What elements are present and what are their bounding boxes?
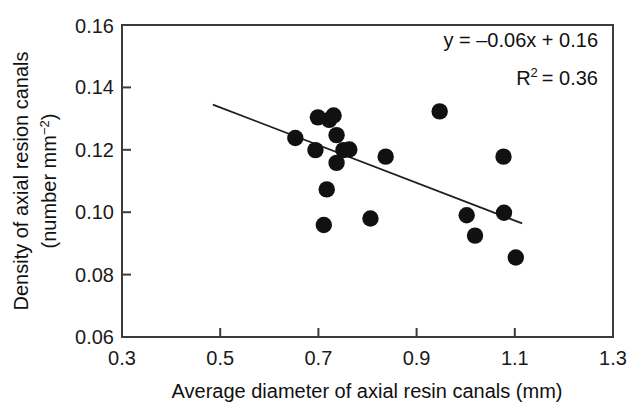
r-squared-superscript: 2: [531, 65, 538, 80]
y-axis-title-line2: (number mm−2): [37, 114, 60, 249]
data-point: [458, 207, 474, 223]
y-tick-label-0.08: 0.08: [75, 264, 114, 286]
y-axis-ticks: [122, 25, 131, 337]
x-axis-ticks: [122, 328, 613, 337]
regression-fit-line: [213, 105, 522, 224]
x-axis-tick-labels: 0.3 0.5 0.7 0.9 1.1 1.3: [108, 347, 627, 369]
data-point: [316, 217, 332, 233]
x-tick-label-0.9: 0.9: [403, 347, 431, 369]
x-tick-label-1.3: 1.3: [599, 347, 627, 369]
r-squared-symbol: R: [516, 67, 530, 89]
data-points-layer: [287, 103, 524, 265]
data-point: [431, 103, 447, 119]
data-point: [508, 249, 524, 265]
y-tick-label-0.12: 0.12: [75, 139, 114, 161]
r-squared-value: = 0.36: [542, 67, 598, 89]
r-squared-label: R2= 0.36: [516, 65, 598, 89]
data-point: [495, 148, 511, 164]
x-tick-label-1.1: 1.1: [501, 347, 529, 369]
data-point: [325, 107, 341, 123]
data-point: [496, 205, 512, 221]
data-point: [307, 142, 323, 158]
axis-frame-path: [122, 25, 613, 337]
x-axis-title: Average diameter of axial resin canals (…: [172, 380, 563, 402]
regression-annotation: y = –0.06x + 0.16 R2= 0.36: [443, 29, 598, 89]
y-axis-title-line2-pre: (number mm: [38, 135, 60, 248]
y-axis-title-line1: Density of axial resion canals: [10, 51, 32, 310]
y-axis-title-superscript: −2: [37, 120, 52, 135]
y-axis-title-line2-post: ): [38, 114, 60, 121]
y-tick-label-0.16: 0.16: [75, 15, 114, 37]
regression-equation-label: y = –0.06x + 0.16: [443, 29, 598, 51]
data-point: [319, 181, 335, 197]
y-axis-title: Density of axial resion canals (number m…: [10, 51, 60, 310]
data-point: [341, 141, 357, 157]
x-tick-label-0.5: 0.5: [206, 347, 234, 369]
x-tick-label-0.3: 0.3: [108, 347, 136, 369]
data-point: [328, 127, 344, 143]
y-tick-label-0.10: 0.10: [75, 201, 114, 223]
y-tick-label-0.06: 0.06: [75, 326, 114, 348]
plot-frame: [122, 25, 613, 337]
data-point: [467, 227, 483, 243]
data-point: [362, 210, 378, 226]
figure-container: 0.06 0.08 0.10 0.12 0.14 0.16 0.3 0.5 0.…: [0, 0, 643, 418]
data-point: [287, 130, 303, 146]
y-tick-label-0.14: 0.14: [75, 76, 114, 98]
x-tick-label-0.7: 0.7: [304, 347, 332, 369]
y-axis-tick-labels: 0.06 0.08 0.10 0.12 0.14 0.16: [75, 15, 114, 348]
scatter-chart: 0.06 0.08 0.10 0.12 0.14 0.16 0.3 0.5 0.…: [0, 0, 643, 418]
data-point: [377, 148, 393, 164]
